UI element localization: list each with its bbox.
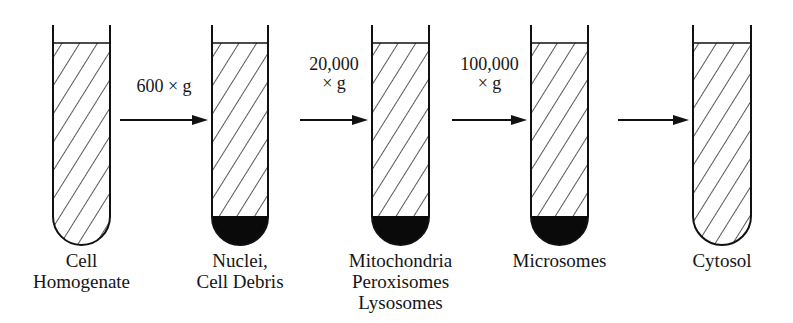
arrow-2 <box>300 115 368 125</box>
centrifugal-force-label-3: 100,000× g <box>460 55 519 93</box>
arrow-4 <box>618 115 689 125</box>
arrow-head-icon <box>673 115 689 125</box>
test-tube-2 <box>212 25 268 245</box>
test-tube-5 <box>693 25 751 245</box>
tube-label-line: Cell Debris <box>196 271 283 292</box>
tube-label-line: Nuclei, <box>196 250 283 271</box>
supernatant-hatch <box>212 43 268 245</box>
arrow-head-icon <box>192 115 208 125</box>
supernatant-hatch <box>531 43 588 245</box>
test-tube-1 <box>53 25 110 245</box>
pellet <box>531 216 588 245</box>
tube-label-4: Microsomes <box>513 250 607 271</box>
force-label-line: 100,000 <box>460 55 519 74</box>
supernatant-hatch <box>53 43 110 245</box>
supernatant-hatch <box>372 43 429 245</box>
pellet <box>372 216 429 245</box>
tube-label-line: Mitochondria <box>349 250 452 271</box>
supernatant-hatch <box>693 43 751 245</box>
tube-label-line: Lysosomes <box>349 292 452 313</box>
pellet <box>212 216 268 245</box>
tube-label-1: CellHomogenate <box>33 250 130 292</box>
tube-label-line: Cytosol <box>692 250 751 271</box>
tube-label-3: MitochondriaPeroxisomesLysosomes <box>349 250 452 313</box>
arrow-head-icon <box>352 115 368 125</box>
tube-label-line: Peroxisomes <box>349 271 452 292</box>
force-label-line: 600 × g <box>136 77 191 96</box>
force-label-line: × g <box>309 74 359 93</box>
arrow-3 <box>452 115 527 125</box>
force-label-line: × g <box>460 74 519 93</box>
tube-label-5: Cytosol <box>692 250 751 271</box>
arrow-head-icon <box>511 115 527 125</box>
tube-label-line: Homogenate <box>33 271 130 292</box>
tube-label-line: Microsomes <box>513 250 607 271</box>
test-tube-3 <box>372 25 429 245</box>
force-label-line: 20,000 <box>309 55 359 74</box>
centrifugal-force-label-2: 20,000× g <box>309 55 359 93</box>
tube-label-line: Cell <box>33 250 130 271</box>
tube-label-2: Nuclei,Cell Debris <box>196 250 283 292</box>
arrow-1 <box>120 115 208 125</box>
centrifugal-force-label-1: 600 × g <box>136 77 191 96</box>
test-tube-4 <box>531 25 588 245</box>
